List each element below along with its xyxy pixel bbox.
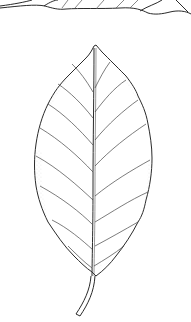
leaf-drawing — [0, 0, 191, 322]
leaf-illustration — [0, 0, 191, 322]
top-leaf-fragment — [0, 0, 191, 14]
main-leaf — [35, 45, 153, 316]
